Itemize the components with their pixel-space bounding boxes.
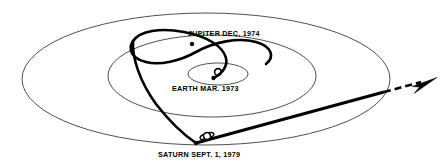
jupiter-label: JUPITER DEC. 1974 (188, 29, 260, 38)
earth-marker (212, 76, 216, 80)
saturn-label: SATURN SEPT. 1, 1979 (158, 150, 240, 159)
trajectory-diagram: JUPITER DEC. 1974 EARTH MAR. 1973 SATURN… (0, 0, 447, 165)
trajectory-jupiter-to-saturn (146, 40, 271, 64)
earth-label: EARTH MAR. 1973 (172, 84, 239, 93)
saturn-marker (194, 141, 198, 145)
encounter-markers (190, 42, 215, 145)
jupiter-marker (190, 42, 194, 46)
escape-arrow-icon (412, 78, 437, 94)
trajectory-canvas: JUPITER DEC. 1974 EARTH MAR. 1973 SATURN… (0, 0, 447, 165)
